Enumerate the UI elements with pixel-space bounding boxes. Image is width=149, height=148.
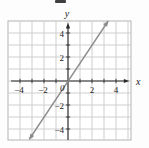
y-tick-label: −2 [54, 101, 64, 111]
y-axis-label: y [64, 8, 70, 19]
cropped-text-fragment [55, 0, 66, 3]
x-tick-label: −2 [38, 85, 48, 95]
graph-figure: y x 0 −4 −2 2 4 4 2 −2 −4 [0, 0, 149, 148]
x-tick-label: 4 [114, 85, 119, 95]
y-tick-label: 2 [60, 53, 65, 63]
origin-label: 0 [60, 83, 65, 93]
y-tick-label: −4 [54, 125, 64, 135]
x-axis-label: x [135, 76, 141, 87]
coordinate-plane-svg: y x 0 −4 −2 2 4 4 2 −2 −4 [0, 0, 149, 148]
x-tick-label: −4 [14, 85, 24, 95]
x-tick-label: 2 [90, 85, 95, 95]
y-tick-label: 4 [60, 29, 65, 39]
